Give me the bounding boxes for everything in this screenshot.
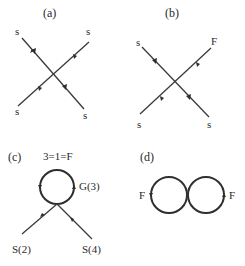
panel-a: (a) s s s s <box>15 6 90 121</box>
leg-b-top-left: s <box>136 36 140 48</box>
arrow-icon <box>222 193 226 197</box>
loop-circle <box>40 170 74 204</box>
panel-b: (b) s F s s <box>136 6 217 130</box>
leg-b-top-right: F <box>211 35 217 47</box>
panel-c: (c) 3=1=F G(3) S(2) S(4) <box>8 150 101 256</box>
arrow-icon <box>38 185 42 189</box>
panel-d-label: (d) <box>140 150 154 164</box>
loop-left-label: F <box>139 189 145 201</box>
panel-a-label: (a) <box>43 6 56 20</box>
loop-label: 3=1=F <box>43 150 73 162</box>
leg-c-bottom-right: S(4) <box>82 243 101 256</box>
panel-b-label: (b) <box>165 6 179 20</box>
loop-side-label: G(3) <box>79 180 100 193</box>
leg-a-top-left: s <box>15 25 19 37</box>
panel-d: (d) F F <box>139 150 235 213</box>
arrow-icon <box>160 96 164 101</box>
panel-c-label: (c) <box>8 150 21 164</box>
arrow-icon <box>196 62 200 67</box>
leg-a-top-right: s <box>86 25 90 37</box>
loop-right-label: F <box>229 189 235 201</box>
line-a-ascending <box>18 42 89 106</box>
loop-left-circle <box>151 177 187 213</box>
line-c-left <box>22 204 57 234</box>
leg-b-bottom-right: s <box>207 118 211 130</box>
leg-a-bottom-right: s <box>83 109 87 121</box>
arrow-icon <box>72 185 76 189</box>
leg-a-bottom-left: s <box>15 105 19 117</box>
leg-b-bottom-left: s <box>137 118 141 130</box>
line-c-right <box>57 204 92 239</box>
line-b-ascending <box>140 48 211 114</box>
line-b-descending <box>142 47 209 117</box>
leg-c-bottom-left: S(2) <box>12 243 31 256</box>
feynman-diagrams: (a) s s s s (b) s F s s (c) 3=1=F G(3) <box>0 0 245 266</box>
loop-right-circle <box>188 177 224 213</box>
line-a-descending <box>22 38 84 109</box>
arrow-icon <box>149 193 153 197</box>
